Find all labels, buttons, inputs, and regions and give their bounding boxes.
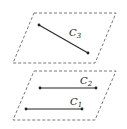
label-c1: C1 <box>70 96 82 109</box>
curve-c2: C2 <box>39 75 98 89</box>
parallel-planes-diagram: C3 C2 C1 <box>0 0 127 129</box>
curve-c3: C3 <box>38 24 90 55</box>
label-c3: C3 <box>69 27 82 40</box>
upper-plane <box>13 13 116 63</box>
label-c2: C2 <box>80 75 93 88</box>
curve-c1: C1 <box>25 96 84 110</box>
lower-plane <box>13 71 116 120</box>
